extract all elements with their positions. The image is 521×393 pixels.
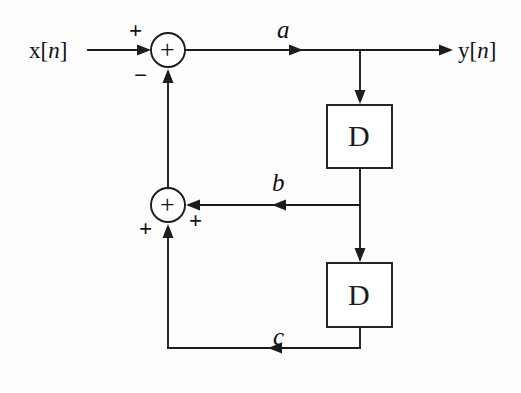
input-label-prefix: x[ [29, 38, 48, 63]
output-label-prefix: y[ [458, 38, 477, 63]
signal-label-b: b [272, 170, 285, 195]
adder-1-operator: + [160, 37, 175, 63]
adder-2-sign-input-c: + [139, 217, 152, 240]
signal-label-a: a [277, 17, 290, 42]
signal-flow-graphic [0, 0, 521, 393]
wire-a-tap-to-delay1 [355, 50, 366, 104]
output-label-index: n [477, 38, 489, 63]
arrowhead-input [137, 45, 151, 56]
wire-junction-to-delay2 [355, 205, 366, 262]
arrowhead-a [289, 45, 303, 56]
arrowhead-delay1-in [355, 90, 366, 104]
arrowhead-output [439, 45, 453, 56]
wire-adder2-to-adder1 [163, 69, 174, 188]
arrowhead-b-mid [272, 200, 286, 211]
arrowhead-c-adder [163, 224, 174, 238]
input-label: x[n] [29, 39, 67, 62]
input-label-index: n [48, 38, 60, 63]
output-label-suffix: ] [489, 38, 497, 63]
wire-b-feedback [186, 200, 360, 211]
arrowhead-delay2-in [355, 248, 366, 262]
adder-1-sign-input-x: + [129, 19, 142, 42]
arrowhead-adder1-feedback [163, 69, 174, 83]
wire-a-output [185, 45, 453, 56]
block-diagram-canvas: x[n] y[n] + + + − + + a b c D D [0, 0, 521, 393]
output-label: y[n] [458, 39, 496, 62]
input-label-suffix: ] [60, 38, 68, 63]
adder-2-operator: + [160, 192, 175, 218]
adder-1-sign-input-feedback: − [134, 64, 147, 87]
delay-2-label: D [348, 280, 370, 310]
delay-1-label: D [348, 121, 370, 151]
adder-2-sign-input-b: + [189, 209, 202, 232]
wire-input-to-adder1 [88, 45, 151, 56]
signal-label-c: c [273, 324, 284, 349]
